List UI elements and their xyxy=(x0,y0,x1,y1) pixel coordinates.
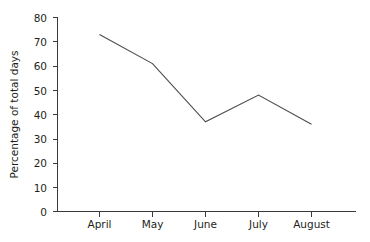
chart-background xyxy=(0,0,370,242)
x-tick-label-june: June xyxy=(193,218,217,230)
y-tick-label-80: 80 xyxy=(34,12,47,24)
chart-canvas: 80 70 60 50 40 30 20 10 0 April May June… xyxy=(0,0,370,242)
y-tick-label-10: 10 xyxy=(34,182,47,194)
x-tick-label-july: July xyxy=(248,218,268,230)
y-tick-label-70: 70 xyxy=(34,36,47,48)
y-tick-label-20: 20 xyxy=(34,157,47,169)
y-axis-title: Percentage of total days xyxy=(8,51,20,179)
x-tick-label-august: August xyxy=(293,218,330,230)
line-chart: 80 70 60 50 40 30 20 10 0 April May June… xyxy=(0,0,370,242)
y-tick-label-30: 30 xyxy=(34,133,47,145)
y-tick-label-0: 0 xyxy=(40,206,47,218)
y-tick-label-40: 40 xyxy=(34,109,47,121)
x-tick-label-april: April xyxy=(88,218,112,230)
x-tick-label-may: May xyxy=(142,218,164,230)
y-tick-label-50: 50 xyxy=(34,85,47,97)
y-tick-label-60: 60 xyxy=(34,60,47,72)
